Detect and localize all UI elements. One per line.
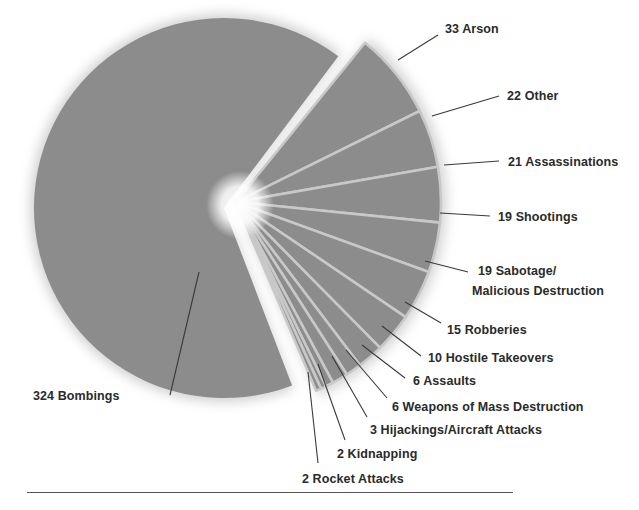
label-assaults: 6 Assaults — [413, 374, 476, 388]
label-weapons-of-mass-destruction: 6 Weapons of Mass Destruction — [392, 400, 584, 414]
center-glow — [206, 171, 274, 239]
label-shootings: 19 Shootings — [498, 210, 578, 224]
label-sabotage-malicious-destruction: 19 Sabotage/ — [478, 264, 557, 278]
label-robberies: 15 Robberies — [447, 323, 527, 337]
pie-chart: 324 Bombings33 Arson22 Other21 Assassina… — [0, 0, 639, 510]
leader-line-arson — [398, 35, 438, 60]
label-sabotage-malicious-destruction-line2: Malicious Destruction — [472, 284, 604, 298]
label-assassinations: 21 Assassinations — [508, 155, 618, 169]
label-rocket-attacks: 2 Rocket Attacks — [302, 472, 404, 486]
label-arson: 33 Arson — [445, 22, 499, 36]
bottom-rule — [27, 492, 513, 493]
leader-line-shootings — [440, 213, 490, 216]
label-kidnapping: 2 Kidnapping — [337, 447, 417, 461]
label-hostile-takeovers: 10 Hostile Takeovers — [428, 351, 553, 365]
label-bombings: 324 Bombings — [33, 389, 120, 403]
label-other: 22 Other — [507, 89, 559, 103]
leader-line-other — [432, 96, 499, 116]
label-hijackings-aircraft-attacks: 3 Hijackings/Aircraft Attacks — [370, 423, 542, 437]
leader-line-assassinations — [444, 161, 499, 165]
